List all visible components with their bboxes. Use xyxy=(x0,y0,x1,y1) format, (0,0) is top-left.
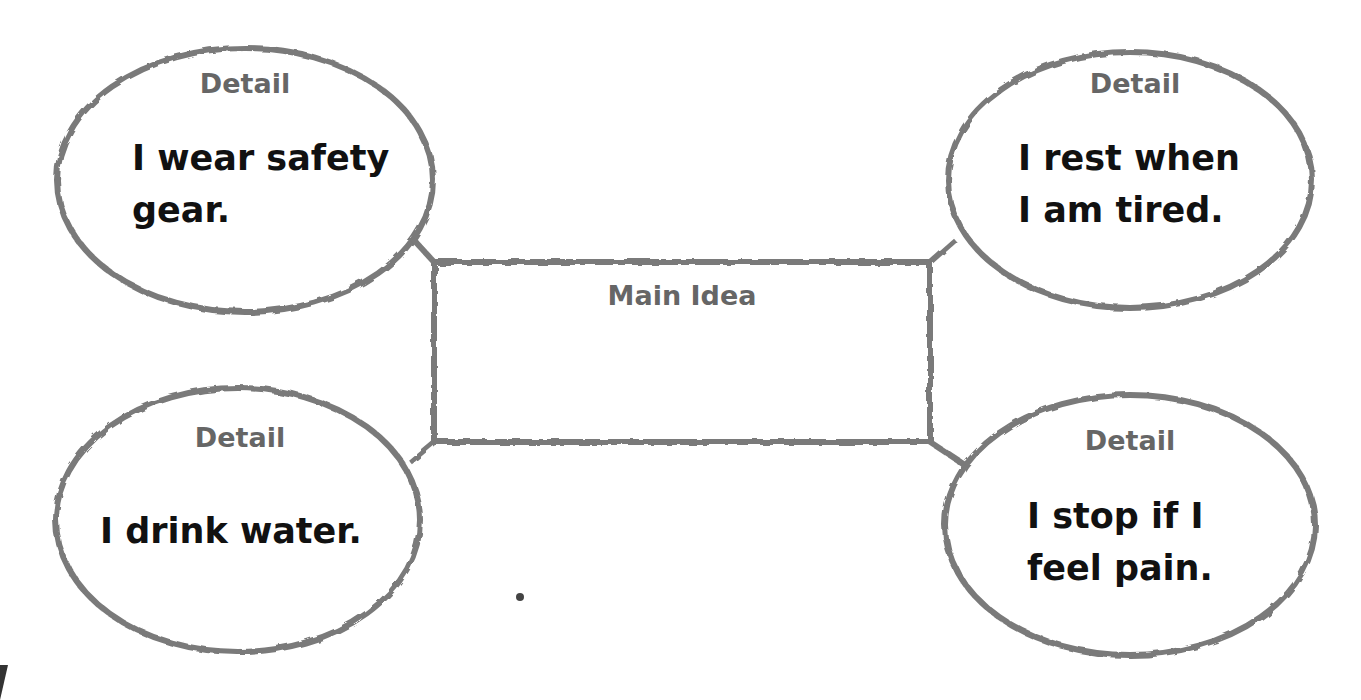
detail-text: I wear safety gear. xyxy=(132,132,389,236)
detail-top-left: Detail I wear safety gear. xyxy=(60,50,430,310)
detail-bottom-left: Detail I drink water. xyxy=(55,390,425,650)
detail-text: I drink water. xyxy=(100,505,362,557)
main-idea-label: Main Idea xyxy=(434,280,930,311)
detail-label: Detail xyxy=(950,68,1320,99)
detail-text: I rest when I am tired. xyxy=(1018,132,1240,236)
detail-bottom-right: Detail I stop if I feel pain. xyxy=(945,395,1315,655)
detail-top-right: Detail I rest when I am tired. xyxy=(950,50,1320,310)
detail-text: I stop if I feel pain. xyxy=(1027,490,1213,594)
detail-label: Detail xyxy=(945,425,1315,456)
page-edge-mark xyxy=(0,665,8,700)
detail-label: Detail xyxy=(55,422,425,453)
main-idea: Main Idea xyxy=(434,262,930,442)
detail-label: Detail xyxy=(60,68,430,99)
